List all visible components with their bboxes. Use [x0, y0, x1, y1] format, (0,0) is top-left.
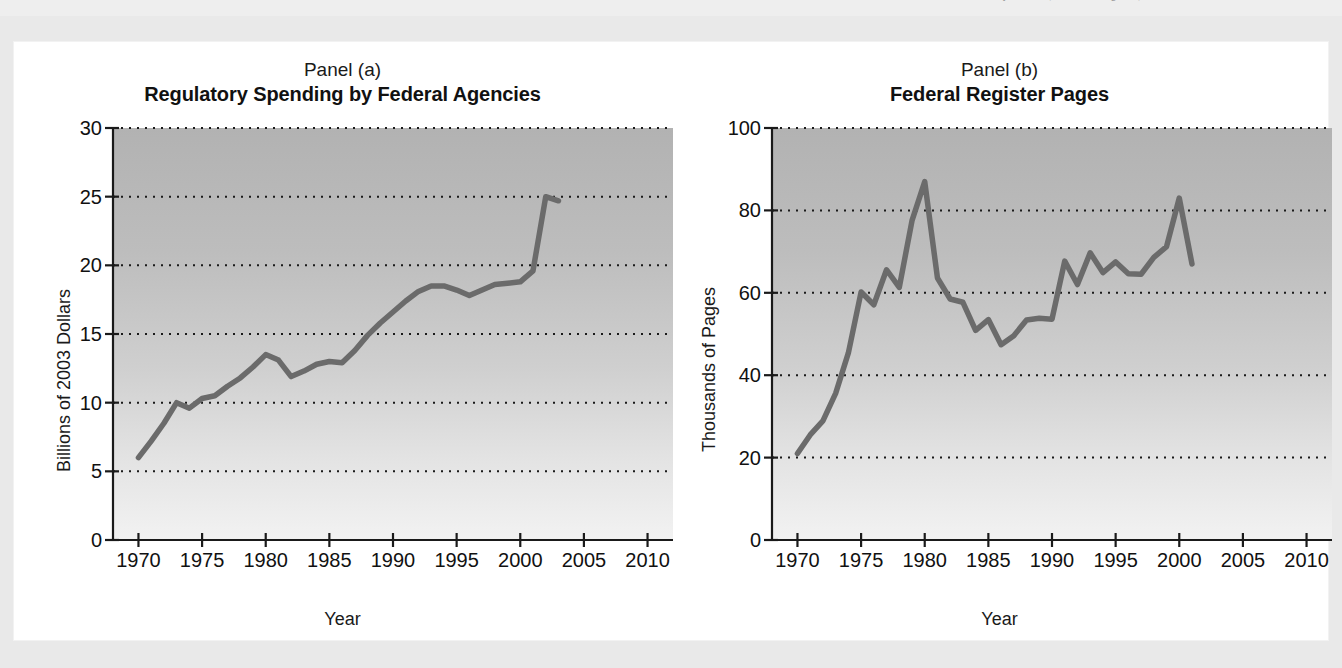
panel-b-plot-frame: 0204060801001970197519801985199019952000… [772, 128, 1332, 540]
panel-a-label: Panel (a) [14, 58, 671, 82]
panel-b: Panel (b) Federal Register Pages Thousan… [671, 42, 1328, 640]
y-tick-label: 0 [91, 529, 102, 552]
x-tick-label: 2000 [1157, 549, 1202, 572]
x-tick-label: 2000 [498, 549, 543, 572]
source-note-text: ...for University Studies; Federal Regis… [0, 0, 1342, 1]
x-tick-label: 2005 [1221, 549, 1266, 572]
panel-b-heading: Panel (b) Federal Register Pages [671, 58, 1328, 107]
y-tick-label: 20 [739, 446, 761, 469]
panel-a-y-axis-title: Billions of 2003 Dollars [54, 289, 75, 472]
y-tick-label: 15 [80, 323, 102, 346]
panel-b-label: Panel (b) [671, 58, 1328, 82]
y-tick-label: 30 [80, 117, 102, 140]
x-tick-label: 1990 [1030, 549, 1075, 572]
panel-a-plot-svg [113, 128, 673, 540]
y-tick-label: 5 [91, 460, 102, 483]
y-tick-label: 10 [80, 391, 102, 414]
y-tick-label: 0 [750, 529, 761, 552]
x-tick-label: 1985 [307, 549, 352, 572]
x-tick-label: 1980 [243, 549, 288, 572]
y-tick-label: 60 [739, 281, 761, 304]
panels-container: Panel (a) Regulatory Spending by Federal… [14, 42, 1328, 640]
panel-a-x-axis-title: Year [14, 609, 671, 630]
y-tick-label: 25 [80, 185, 102, 208]
x-tick-label: 1970 [775, 549, 820, 572]
figure-card: Panel (a) Regulatory Spending by Federal… [14, 42, 1328, 640]
x-tick-label: 1975 [839, 549, 884, 572]
x-tick-label: 1995 [434, 549, 479, 572]
x-tick-label: 1975 [180, 549, 225, 572]
x-tick-label: 1970 [116, 549, 161, 572]
panel-a-heading: Panel (a) Regulatory Spending by Federal… [14, 58, 671, 107]
x-tick-label: 1985 [966, 549, 1011, 572]
x-tick-label: 1980 [902, 549, 947, 572]
panel-a-title: Regulatory Spending by Federal Agencies [14, 82, 671, 107]
x-tick-label: 2010 [625, 549, 670, 572]
panel-a-plot-frame: 0510152025301970197519801985199019952000… [113, 128, 673, 540]
panel-b-y-axis-title: Thousands of Pages [699, 287, 720, 452]
panel-b-title: Federal Register Pages [671, 82, 1328, 107]
panel-b-x-axis-title: Year [671, 609, 1328, 630]
x-tick-label: 2005 [562, 549, 607, 572]
y-tick-label: 20 [80, 254, 102, 277]
y-tick-label: 40 [739, 364, 761, 387]
panel-a: Panel (a) Regulatory Spending by Federal… [14, 42, 671, 640]
y-tick-label: 100 [728, 117, 761, 140]
x-tick-label: 1990 [371, 549, 416, 572]
panel-b-plot-svg [772, 128, 1332, 540]
source-note-strip: ...for University Studies; Federal Regis… [0, 0, 1342, 16]
y-tick-label: 80 [739, 199, 761, 222]
x-tick-label: 1995 [1093, 549, 1138, 572]
x-tick-label: 2010 [1284, 549, 1329, 572]
